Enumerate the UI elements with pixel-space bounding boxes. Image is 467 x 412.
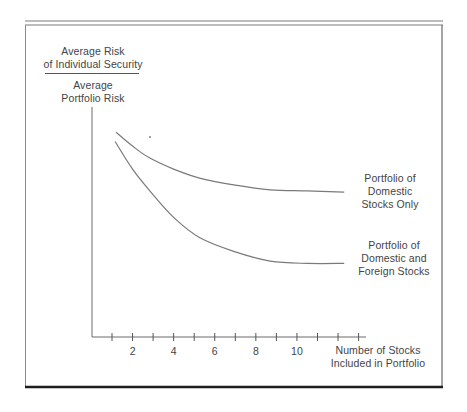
series-label-domestic-foreign-line-2: Domestic and — [350, 252, 438, 265]
series-label-domestic-only-line-3: Stocks Only — [350, 198, 430, 211]
chart-frame: 246810 Average Risk of Individual Securi… — [0, 0, 467, 412]
ylabel-numerator-line-2: of Individual Security — [43, 58, 143, 71]
x-tick-label: 8 — [253, 345, 259, 357]
x-tick-label: 2 — [130, 345, 136, 357]
ylabel-denominator-line-2: Portfolio Risk — [43, 92, 143, 105]
series-label-domestic-only-line-1: Portfolio of — [350, 172, 430, 185]
speck — [149, 136, 151, 138]
series-label-domestic-only-line-2: Domestic — [350, 185, 430, 198]
ylabel-numerator-line-1: Average Risk — [43, 45, 143, 58]
curve-domestic-only — [116, 132, 344, 192]
xlabel-line-2: Included in Portfolio — [328, 357, 428, 370]
ylabel-denominator-line-1: Average — [43, 79, 143, 92]
series-label-domestic-foreign-line-3: Foreign Stocks — [350, 265, 438, 278]
x-tick-label: 6 — [212, 345, 218, 357]
x-tick-label: 10 — [291, 345, 303, 357]
x-axis-tick-labels: 246810 — [130, 345, 303, 357]
curve-domestic-and-foreign — [115, 142, 344, 264]
series-label-domestic-foreign-line-1: Portfolio of — [350, 239, 438, 252]
x-tick-label: 4 — [171, 345, 177, 357]
xlabel-line-1: Number of Stocks — [328, 344, 428, 357]
